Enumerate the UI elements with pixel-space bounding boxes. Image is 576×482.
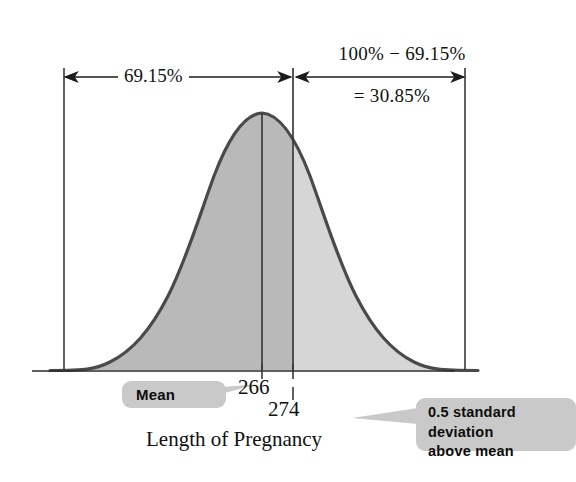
callout-sd-line-1: 0.5 standard deviation (428, 403, 576, 442)
shaded-area-left (40, 100, 293, 372)
callout-sd-tail (352, 408, 418, 424)
callout-mean-label: Mean (136, 386, 175, 403)
percentage-expression: 100% − 69.15% = 30.85% (304, 24, 480, 146)
expression-line-1: 100% − 69.15% (339, 43, 466, 64)
callout-standard-deviation: 0.5 standard deviation above mean (416, 398, 576, 451)
left-region-percent-label: 69.15% (118, 66, 189, 86)
callout-sd-line-2: above mean (428, 442, 576, 462)
tick-label-266: 266 (238, 376, 270, 398)
tick-label-274: 274 (268, 398, 300, 420)
expression-line-2: = 30.85% (304, 86, 480, 106)
callout-mean: Mean (122, 381, 226, 408)
x-axis-title: Length of Pregnancy (146, 428, 322, 450)
